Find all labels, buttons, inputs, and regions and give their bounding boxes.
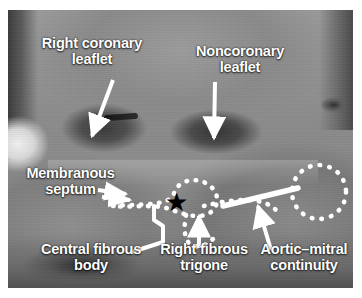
label-right-coronary-leaflet: Right coronary leaflet (22, 36, 162, 67)
star-marker-central-fibrous-body: ★ (165, 187, 188, 217)
label-noncoronary-leaflet: Noncoronary leaflet (175, 44, 305, 75)
label-right-fibrous-trigone: Right fibrous trigone (150, 242, 258, 273)
arrow-right-coronary-leaflet (92, 80, 113, 136)
label-aortic-mitral-continuity: Aortic–mitral continuity (250, 242, 358, 273)
figure-panel: ★ Right coronary leaflet Noncoronary lea… (0, 0, 362, 298)
arrow-membranous-septum-lower (102, 197, 130, 200)
arrow-noncoronary-leaflet (214, 82, 215, 138)
label-membranous-septum: Membranous septum (8, 166, 133, 197)
dotted-outline-aortic-mitral (292, 165, 346, 219)
label-central-fibrous-body: Central fibrous body (16, 242, 166, 273)
